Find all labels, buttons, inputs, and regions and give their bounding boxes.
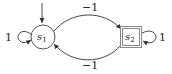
self-loop-s2-label: 1	[159, 31, 166, 44]
self-loop-s1-label: 1	[5, 31, 12, 44]
state-s2[interactable]: s2	[121, 27, 142, 48]
transition-s2-s1	[54, 44, 121, 60]
transition-s1-s2	[54, 15, 121, 31]
state-diagram: s1 1 −1 −1 s2 1	[0, 0, 172, 74]
self-loop-s2	[142, 31, 156, 43]
transition-s2-s1-label: −1	[82, 59, 98, 72]
self-loop-s1	[18, 31, 31, 42]
state-s1[interactable]: s1	[31, 25, 55, 49]
transition-s1-s2-label: −1	[82, 1, 98, 14]
